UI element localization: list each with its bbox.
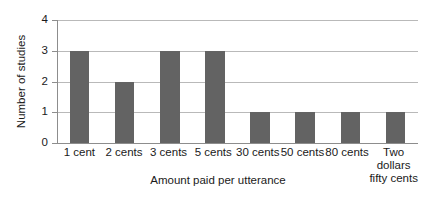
bar (205, 51, 224, 143)
y-tick-label-text: 2 (8, 75, 48, 87)
bar-slot (373, 20, 418, 143)
x-tick-label-line: 2 cents (102, 146, 147, 159)
bar-slot (283, 20, 328, 143)
bar-series (57, 20, 418, 143)
bar-slot (147, 20, 192, 143)
y-tick-label-text: 3 (8, 44, 48, 56)
bar-slot (102, 20, 147, 143)
bar-slot (238, 20, 283, 143)
bar (341, 112, 360, 143)
bar (115, 82, 134, 144)
y-tick-label-text: 1 (8, 105, 48, 117)
bar-chart-figure: Number of studies 01234 1 cent2 cents3 c… (0, 0, 433, 202)
x-tick-label-line: 5 cents (191, 146, 236, 159)
y-tick-0 (52, 143, 57, 144)
y-tick-label-text: 0 (8, 136, 48, 148)
x-tick-label-line: 80 cents (325, 146, 370, 159)
bar (295, 112, 314, 143)
bar (70, 51, 89, 143)
y-tick-label-text: 4 (8, 13, 48, 25)
x-tick-label-line: 30 cents (236, 146, 281, 159)
bar-slot (192, 20, 237, 143)
x-tick-label-line: 1 cent (57, 146, 102, 159)
x-tick-label-line: Two (369, 146, 418, 159)
bar (386, 112, 405, 143)
bar-slot (57, 20, 102, 143)
x-axis-title: Amount paid per utterance (57, 174, 379, 186)
gridline-0 (57, 143, 418, 144)
x-tick-label-line: 50 cents (280, 146, 325, 159)
bar (250, 112, 269, 143)
bar-slot (328, 20, 373, 143)
x-tick-label-line: 3 cents (146, 146, 191, 159)
x-tick-label-line: dollars (369, 159, 418, 172)
bar (160, 51, 179, 143)
